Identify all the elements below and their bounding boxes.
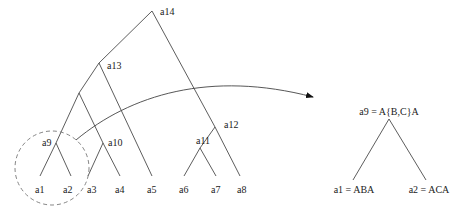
leaf-label-a3: a3 bbox=[87, 184, 96, 195]
detail-root-label: a9 = A{B,C}A bbox=[359, 106, 419, 117]
edge-inner-a10 bbox=[79, 93, 103, 143]
edge-a14-a13 bbox=[99, 11, 152, 63]
node-label-a12: a12 bbox=[224, 119, 238, 130]
leaf-label-a4: a4 bbox=[115, 184, 124, 195]
edge-a13-a5 bbox=[99, 63, 152, 176]
phylogenetic-tree-diagram: a14 a13 a12 a11 a10 a9 a1 a2 a3 a4 a5 a6… bbox=[0, 0, 464, 210]
tree-edges bbox=[40, 11, 240, 176]
edge-a11-a7 bbox=[200, 148, 216, 176]
node-label-a10: a10 bbox=[108, 137, 122, 148]
node-label-a13: a13 bbox=[107, 60, 121, 71]
detail-edge-left bbox=[353, 119, 389, 180]
leaf-labels: a1 a2 a3 a4 a5 a6 a7 a8 bbox=[35, 184, 246, 195]
internal-labels: a14 a13 a12 a11 a10 a9 bbox=[42, 6, 238, 148]
detail-subtree: a9 = A{B,C}A a1 = ABA a2 = ACA bbox=[334, 106, 450, 195]
leaf-label-a7: a7 bbox=[211, 184, 220, 195]
leaf-label-a8: a8 bbox=[237, 184, 246, 195]
highlight-circle bbox=[15, 131, 89, 205]
edge-a9-a2 bbox=[56, 143, 71, 176]
detail-right-label: a2 = ACA bbox=[409, 184, 450, 195]
edge-inner-a9 bbox=[56, 93, 79, 143]
node-label-a14: a14 bbox=[160, 6, 174, 17]
zoom-arrow bbox=[76, 86, 313, 140]
leaf-label-a6: a6 bbox=[179, 184, 188, 195]
leaf-label-a5: a5 bbox=[147, 184, 156, 195]
leaf-label-a1: a1 bbox=[35, 184, 44, 195]
leaf-label-a2: a2 bbox=[63, 184, 72, 195]
edge-a13-inner bbox=[79, 63, 99, 93]
edge-a12-a8 bbox=[215, 127, 240, 176]
edge-a14-a12 bbox=[152, 11, 215, 127]
node-label-a11: a11 bbox=[196, 135, 210, 146]
detail-left-label: a1 = ABA bbox=[334, 184, 375, 195]
detail-edge-right bbox=[389, 119, 426, 180]
edge-a10-a3 bbox=[88, 143, 103, 176]
node-label-a9: a9 bbox=[42, 137, 51, 148]
edge-a11-a6 bbox=[184, 148, 200, 176]
